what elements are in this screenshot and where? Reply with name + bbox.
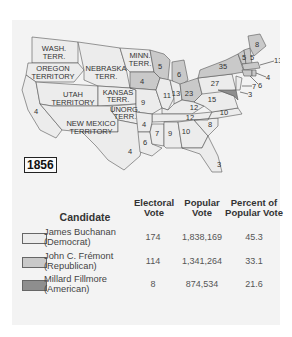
svg-text:9: 9	[168, 129, 172, 138]
popular-vote: 1,341,264	[178, 256, 226, 266]
header-candidate: Candidate	[40, 212, 130, 222]
svg-text:23: 23	[185, 89, 193, 98]
svg-text:6: 6	[143, 138, 147, 147]
svg-text:4: 4	[142, 120, 146, 129]
svg-text:5: 5	[158, 62, 162, 71]
percent-popular: 33.1	[236, 256, 272, 266]
svg-text:3: 3	[248, 90, 252, 99]
legend-row-fremont: John C. Frémont (Republican) 114 1,341,2…	[14, 251, 278, 275]
svg-text:15: 15	[208, 95, 216, 104]
svg-text:TERRITORY: TERRITORY	[51, 98, 94, 107]
legend-row-fillmore: Millard Fillmore (American) 8 874,534 21…	[14, 274, 278, 298]
svg-text:10: 10	[220, 108, 228, 117]
svg-text:11: 11	[163, 91, 171, 100]
header-percent-line2: Popular Vote	[216, 208, 292, 218]
legend-row-buchanan: James Buchanan (Democrat) 174 1,838,169 …	[14, 227, 278, 251]
svg-text:12: 12	[186, 113, 194, 122]
svg-text:10: 10	[182, 127, 190, 136]
svg-text:TERR.: TERR.	[114, 112, 137, 121]
svg-text:4: 4	[128, 147, 132, 156]
svg-text:7: 7	[252, 82, 256, 91]
region-connecticut	[242, 70, 252, 76]
election-map-1856: WASH.TERR. OREGONTERRITORY NEBRASKATERR.…	[12, 20, 280, 180]
electoral-vote: 114	[138, 256, 168, 266]
svg-text:TERR.: TERR.	[107, 95, 130, 104]
svg-text:12: 12	[190, 103, 198, 112]
popular-vote: 1,838,169	[178, 232, 226, 242]
svg-text:TERRITORY: TERRITORY	[31, 72, 74, 81]
svg-text:35: 35	[219, 62, 227, 71]
percent-popular: 45.3	[236, 232, 272, 242]
svg-text:8: 8	[208, 120, 212, 129]
svg-text:27: 27	[211, 79, 219, 88]
electoral-vote: 174	[138, 232, 168, 242]
svg-text:9: 9	[141, 98, 145, 107]
popular-vote: 874,534	[178, 279, 226, 289]
candidate-name: James Buchanan (Democrat)	[44, 227, 116, 247]
svg-text:3: 3	[217, 160, 221, 169]
percent-popular: 21.6	[236, 279, 272, 289]
svg-text:5: 5	[250, 53, 254, 62]
candidate-name: John C. Frémont (Republican)	[44, 251, 113, 271]
header-percent-popular: Percent of Popular Vote	[216, 198, 292, 218]
svg-text:TERR.: TERR.	[129, 59, 152, 68]
region-new-jersey	[236, 76, 242, 90]
electoral-vote: 8	[138, 279, 168, 289]
svg-text:6: 6	[177, 70, 181, 79]
svg-text:8: 8	[255, 40, 259, 49]
header-electoral-vote: Electoral Vote	[126, 198, 182, 218]
svg-text:13: 13	[172, 89, 180, 98]
svg-text:6: 6	[258, 81, 262, 90]
header-electoral-line2: Vote	[126, 208, 182, 218]
svg-text:4: 4	[266, 73, 270, 82]
year-label: 1856	[24, 157, 57, 173]
candidate-name: Millard Fillmore (American)	[44, 274, 107, 294]
svg-text:TERRITORY: TERRITORY	[69, 127, 112, 136]
svg-text:7: 7	[155, 129, 159, 138]
svg-text:4: 4	[140, 77, 144, 86]
svg-text:13: 13	[274, 56, 280, 65]
region-iowa	[130, 72, 160, 90]
svg-text:TERR.: TERR.	[95, 72, 118, 81]
svg-text:5: 5	[242, 53, 246, 62]
region-rhode-island	[252, 70, 256, 76]
svg-text:TERR.: TERR.	[43, 52, 66, 61]
svg-text:4: 4	[34, 107, 38, 116]
